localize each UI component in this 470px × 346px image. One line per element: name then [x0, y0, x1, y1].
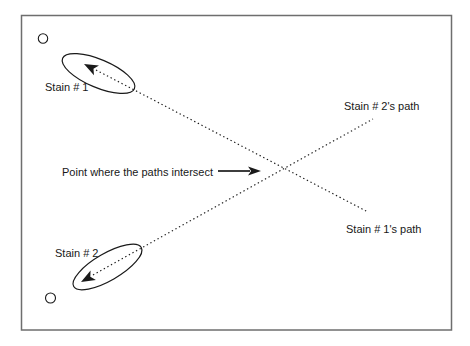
label-stain-1-path: Stain # 1's path: [346, 223, 422, 235]
label-intersect-caption: Point where the paths intersect: [62, 166, 213, 178]
stain-1-direction-arrowhead: [84, 64, 99, 75]
stain-2-direction-arrowhead: [81, 270, 96, 282]
stain-1-ellipse: [57, 45, 140, 101]
stain-1-path-line: [96, 70, 368, 212]
reference-circle-bottom: [46, 293, 56, 303]
label-stain-1: Stain # 1: [45, 81, 88, 93]
figure-canvas: Stain # 1 Stain # 2 Stain # 2's path Sta…: [0, 0, 470, 346]
reference-circle-top: [38, 34, 47, 43]
label-stain-2-path: Stain # 2's path: [344, 100, 420, 112]
bloodstain-path-diagram: Stain # 1 Stain # 2 Stain # 2's path Sta…: [0, 0, 470, 346]
labels-layer: Stain # 1 Stain # 2 Stain # 2's path Sta…: [45, 81, 422, 259]
stain-2-path-line: [93, 119, 373, 275]
label-stain-2: Stain # 2: [55, 247, 98, 259]
